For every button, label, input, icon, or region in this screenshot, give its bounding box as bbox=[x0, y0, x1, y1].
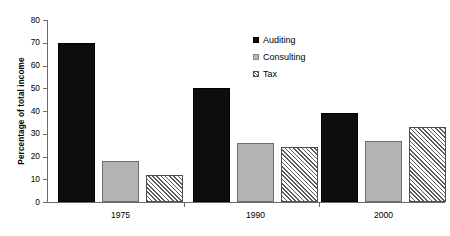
bar-tax-1975 bbox=[146, 175, 183, 202]
x-tick-label-1990: 1990 bbox=[226, 210, 286, 220]
legend-item-consulting: Consulting bbox=[253, 48, 363, 65]
y-tick-label: 50 bbox=[6, 84, 40, 92]
legend-label: Tax bbox=[263, 69, 277, 79]
legend-label: Consulting bbox=[263, 52, 306, 62]
bar-consulting-1975 bbox=[102, 161, 139, 202]
legend-label: Auditing bbox=[263, 35, 296, 45]
y-tick-label: 20 bbox=[6, 152, 40, 160]
y-tick-mark bbox=[43, 202, 47, 203]
legend-item-tax: Tax bbox=[253, 65, 363, 82]
y-tick-label: 10 bbox=[6, 175, 40, 183]
chart-legend: AuditingConsultingTax bbox=[253, 31, 363, 82]
black-square-icon bbox=[253, 37, 259, 43]
y-tick-label: 80 bbox=[6, 16, 40, 24]
x-tick-mark bbox=[184, 203, 185, 207]
bar-consulting-2000 bbox=[365, 141, 402, 202]
y-tick-label: 0 bbox=[6, 198, 40, 206]
y-tick-label: 60 bbox=[6, 61, 40, 69]
plot-area bbox=[47, 20, 443, 202]
bar-tax-1990 bbox=[281, 147, 318, 202]
hatched-square-icon bbox=[253, 71, 259, 77]
bar-consulting-1990 bbox=[237, 143, 274, 202]
x-axis-line bbox=[47, 202, 445, 203]
y-tick-label: 30 bbox=[6, 129, 40, 137]
legend-item-auditing: Auditing bbox=[253, 31, 363, 48]
gray-square-icon bbox=[253, 54, 259, 60]
y-tick-label: 70 bbox=[6, 38, 40, 46]
x-tick-label-2000: 2000 bbox=[354, 210, 414, 220]
bar-auditing-2000 bbox=[321, 113, 358, 202]
bar-auditing-1990 bbox=[193, 88, 230, 202]
x-tick-mark bbox=[319, 203, 320, 207]
bar-chart: Percentage of total income 0102030405060… bbox=[0, 0, 450, 236]
bar-tax-2000 bbox=[409, 127, 446, 202]
x-tick-label-1975: 1975 bbox=[91, 210, 151, 220]
bar-auditing-1975 bbox=[58, 43, 95, 202]
y-tick-label: 40 bbox=[6, 107, 40, 115]
